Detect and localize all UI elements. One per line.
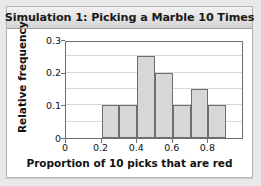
x-tick-label: 0.6 xyxy=(157,143,187,153)
bar xyxy=(208,105,226,138)
bar xyxy=(102,105,120,138)
chart-title: Simulation 1: Picking a Marble 10 Times xyxy=(5,11,255,24)
chart-card: Simulation 1: Picking a Marble 10 Times … xyxy=(6,6,253,178)
plot-box xyxy=(65,41,243,139)
bar-series xyxy=(66,42,242,138)
bar xyxy=(119,105,137,138)
y-tick-label: 0.1 xyxy=(35,101,61,111)
y-axis-tick-labels: 00.10.20.3 xyxy=(35,41,61,139)
y-tick-label: 0.2 xyxy=(35,68,61,78)
bar xyxy=(155,73,173,138)
x-tick-label: 0.2 xyxy=(86,143,116,153)
x-axis-label: Proportion of 10 picks that are red xyxy=(7,157,252,169)
bar xyxy=(137,56,155,138)
y-tick-label: 0 xyxy=(35,134,61,144)
x-tick-label: 0.4 xyxy=(121,143,151,153)
x-tick-label: 0 xyxy=(50,143,80,153)
bar xyxy=(191,89,209,138)
x-axis-tick-labels: 00.20.40.60.8 xyxy=(65,143,243,155)
y-tick-label: 0.3 xyxy=(35,36,61,46)
y-axis-label: Relative frequency xyxy=(16,25,28,133)
chart-plot-area: Relative frequency 00.10.20.3 00.20.40.6… xyxy=(7,29,252,177)
bar xyxy=(173,105,191,138)
chart-title-bar: Simulation 1: Picking a Marble 10 Times xyxy=(7,7,252,29)
x-tick-label: 0.8 xyxy=(192,143,222,153)
